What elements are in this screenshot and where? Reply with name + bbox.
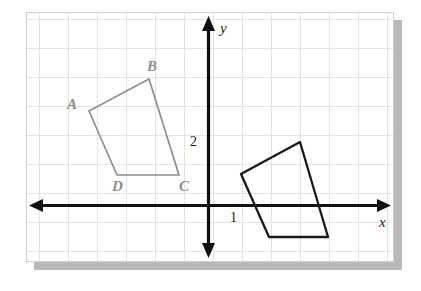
- quadrilateral-abcd: [89, 79, 179, 175]
- vertex-label-a: A: [67, 97, 77, 112]
- vertex-label-c: C: [179, 179, 189, 194]
- coordinate-plane-svg: [27, 13, 393, 261]
- coordinate-plane-panel: A B C D 2 1 y x: [26, 12, 394, 262]
- x-tick-label-1: 1: [230, 211, 237, 225]
- y-axis-label: y: [220, 21, 227, 36]
- grid-vertical-lines: [40, 13, 388, 261]
- x-axis-label: x: [379, 215, 386, 230]
- y-tick-label-2: 2: [190, 135, 197, 149]
- vertex-label-b: B: [147, 59, 157, 74]
- vertex-label-d: D: [112, 179, 123, 194]
- figure-stage: A B C D 2 1 y x: [0, 0, 421, 291]
